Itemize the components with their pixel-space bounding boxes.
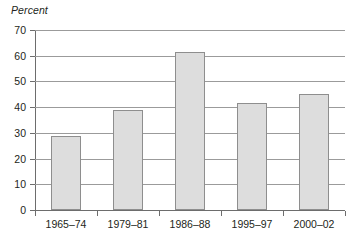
x-axis-tick-label: 1965–74 [35, 219, 97, 230]
bar [51, 136, 81, 210]
y-axis-tick-label: 20 [0, 154, 26, 165]
x-axis-tick [283, 211, 284, 216]
x-axis-tick-label: 2000–02 [283, 219, 345, 230]
y-axis-tick-label: 60 [0, 51, 26, 62]
plot-area [35, 30, 345, 210]
bar-chart: Percent 010203040506070 1965–741979–8119… [0, 0, 353, 239]
x-axis-tick [97, 211, 98, 216]
x-axis-tick [345, 211, 346, 216]
y-axis-tick [30, 133, 35, 134]
bar [237, 103, 267, 210]
y-axis-tick-label: 50 [0, 76, 26, 87]
y-axis-title: Percent [11, 4, 48, 16]
y-axis-tick [30, 107, 35, 108]
y-axis-tick-label: 40 [0, 102, 26, 113]
y-axis-tick [30, 56, 35, 57]
y-axis-tick-label: 70 [0, 25, 26, 36]
x-axis-tick [221, 211, 222, 216]
bar [113, 110, 143, 210]
x-axis-tick-label: 1995–97 [221, 219, 283, 230]
gridline [35, 30, 345, 31]
y-axis-tick [30, 81, 35, 82]
x-axis-tick [35, 211, 36, 216]
y-axis-tick-label: 10 [0, 179, 26, 190]
x-axis-tick-label: 1979–81 [97, 219, 159, 230]
y-axis-tick-label: 0 [0, 205, 26, 216]
y-axis-tick [30, 184, 35, 185]
x-axis-tick [159, 211, 160, 216]
bar [299, 94, 329, 210]
y-axis-tick-label: 30 [0, 128, 26, 139]
y-axis-tick [30, 159, 35, 160]
y-axis-tick [30, 30, 35, 31]
x-axis-tick-label: 1986–88 [159, 219, 221, 230]
bar [175, 52, 205, 210]
gridline [35, 210, 345, 211]
